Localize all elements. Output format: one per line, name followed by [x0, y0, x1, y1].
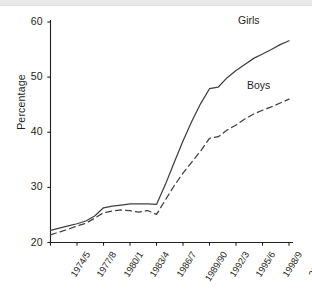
series-line-boys	[51, 99, 290, 235]
series-label-girls: Girls	[238, 14, 260, 26]
axis-lines	[51, 20, 294, 243]
plot-area	[0, 0, 312, 291]
series-label-boys: Boys	[247, 79, 270, 91]
series-line-girls	[51, 41, 290, 231]
axis-ticks	[47, 22, 289, 246]
data-series-lines	[51, 41, 290, 235]
chart-figure: Percentage 2030405060 1974/51977/81980/1…	[0, 0, 312, 291]
